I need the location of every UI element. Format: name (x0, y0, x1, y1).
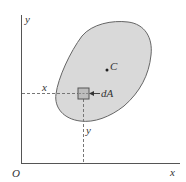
origin-label: O (12, 167, 20, 179)
x-distance-label: x (41, 81, 47, 93)
centroid-diagram: y x O C dA x y (0, 0, 186, 182)
area-region (56, 22, 152, 122)
area-element-label: dA (101, 87, 114, 99)
y-distance-label: y (85, 124, 91, 136)
x-axis-label: x (169, 166, 175, 178)
centroid-label: C (110, 60, 118, 72)
centroid-dot (106, 69, 109, 72)
y-axis-label: y (24, 13, 30, 25)
